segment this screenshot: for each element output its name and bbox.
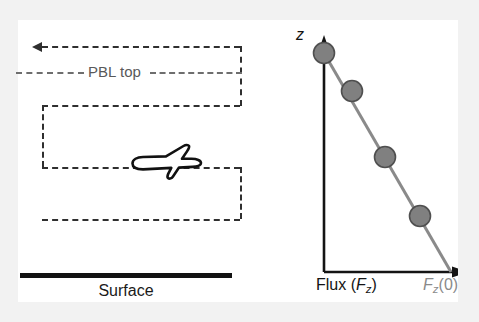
data-point	[375, 147, 396, 168]
pbl-top-line-left	[16, 72, 84, 74]
figure-white-panel: PBL top Surface	[18, 20, 458, 302]
flight-leg-bottom	[42, 219, 240, 221]
surface-line	[20, 273, 232, 278]
flight-leg-second	[42, 105, 240, 107]
annotation-value: (0)	[439, 276, 459, 293]
data-point	[342, 81, 363, 102]
annotation-symbol: F	[423, 276, 433, 293]
pbl-top-label: PBL top	[88, 63, 141, 80]
flight-turn-right-lower	[240, 167, 242, 219]
flight-direction-arrow	[32, 42, 42, 52]
x-axis-label-text: Flux (	[316, 276, 356, 293]
pbl-top-line-right	[150, 72, 242, 74]
figure-canvas: PBL top Surface	[0, 0, 479, 322]
surface-label: Surface	[18, 282, 234, 300]
data-point	[410, 206, 431, 227]
data-point	[314, 43, 335, 64]
x-axis-label: Flux (Fz)	[316, 276, 377, 295]
flight-leg-top	[42, 46, 240, 48]
x-axis-label-close: )	[372, 276, 377, 293]
x-axis-label-symbol: F	[356, 276, 366, 293]
flight-turn-left	[42, 105, 44, 167]
y-axis-label: z	[296, 26, 304, 44]
aircraft-icon	[128, 143, 206, 183]
flux-profile-chart: z Flux (Fz) Fz(0)	[268, 20, 458, 302]
flight-turn-right-upper	[240, 46, 242, 106]
chart-plot-area	[268, 20, 458, 302]
surface-flux-annotation: Fz(0)	[423, 276, 458, 295]
flight-pattern-panel: PBL top Surface	[18, 20, 268, 302]
